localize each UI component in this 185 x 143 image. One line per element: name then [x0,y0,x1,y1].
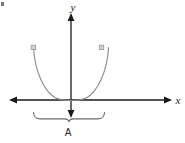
interval-brace-group: A [34,113,105,139]
y-axis-label: y [70,1,76,13]
graph-canvas: A y x [0,0,185,143]
x-axis-label: x [175,94,181,106]
y-axis-top-arrowhead [68,13,75,21]
curve-right-endpoint-marker [99,45,103,49]
scan-artifact-mark [1,2,4,6]
interval-brace-label: A [65,127,72,138]
parabola-curve-group [31,45,108,100]
x-axis-right-arrowhead [164,97,172,104]
curve-left-endpoint-marker [31,45,35,49]
y-axis-bottom-arrowhead [68,110,75,118]
x-axis-left-arrowhead [9,97,17,104]
parabola-figure: A y x [0,0,185,143]
axes-group [9,13,172,118]
interval-brace [34,113,105,122]
